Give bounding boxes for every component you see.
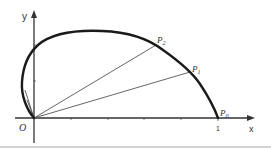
x-tick-label-1: 1 — [216, 125, 220, 132]
ray-to-p2 — [34, 45, 156, 118]
polar-curve — [22, 31, 218, 118]
polar-curve-diagram: y x 1 O P2 P1 P0 — [0, 0, 271, 150]
x-axis-label: x — [249, 124, 254, 134]
y-axis-label: y — [22, 11, 27, 22]
point-label-p2: P2 — [156, 35, 166, 46]
rays — [25, 45, 190, 118]
x-axis-arrow-icon — [247, 115, 255, 121]
point-label-p0: P0 — [219, 108, 229, 119]
y-axis-arrow-icon — [31, 10, 37, 18]
ray-to-p1 — [34, 72, 190, 118]
point-label-p1: P1 — [191, 64, 201, 75]
origin-label: O — [19, 122, 26, 133]
bottom-divider — [0, 146, 271, 148]
